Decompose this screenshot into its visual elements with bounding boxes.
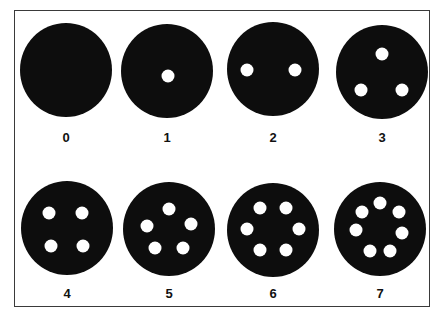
disk-5 <box>123 182 215 276</box>
disk-hole <box>241 64 254 77</box>
disk-hole <box>163 203 176 216</box>
disk-hole <box>374 197 387 210</box>
disk-body <box>336 25 428 119</box>
disk-3 <box>336 25 428 119</box>
disk-hole <box>384 245 397 258</box>
disk-body <box>334 182 426 276</box>
disk-hole <box>280 202 293 215</box>
disk-hole <box>254 202 267 215</box>
disk-0 <box>20 23 112 117</box>
disk-label-5: 5 <box>165 286 172 301</box>
disk-hole <box>254 244 267 257</box>
disk-hole <box>77 240 90 253</box>
disk-hole <box>185 218 198 231</box>
disk-hole <box>76 207 89 220</box>
disk-body <box>123 182 215 276</box>
disk-body <box>20 23 112 117</box>
disk-hole <box>355 84 368 97</box>
disk-4 <box>21 181 113 275</box>
disk-hole <box>149 242 162 255</box>
disk-hole <box>280 244 293 257</box>
disk-diagram: 0 1 2 3 4 5 6 7 <box>0 0 442 319</box>
disk-label-4: 4 <box>63 286 71 301</box>
disk-body <box>21 181 113 275</box>
disk-hole <box>376 48 389 61</box>
disk-label-7: 7 <box>376 286 383 301</box>
disk-hole <box>396 227 409 240</box>
disk-hole <box>289 64 302 77</box>
disk-label-3: 3 <box>378 130 385 145</box>
disk-hole <box>177 242 190 255</box>
disk-hole <box>162 70 175 83</box>
disk-1 <box>121 24 213 118</box>
disk-label-1: 1 <box>163 130 170 145</box>
disk-hole <box>364 245 377 258</box>
disk-7 <box>334 182 426 276</box>
disk-hole <box>241 223 254 236</box>
disk-hole <box>293 223 306 236</box>
disk-label-6: 6 <box>269 286 276 301</box>
disk-hole <box>141 220 154 233</box>
disk-label-0: 0 <box>62 130 69 145</box>
disk-hole <box>356 206 369 219</box>
disk-2 <box>227 22 319 116</box>
disk-hole <box>43 207 56 220</box>
disk-hole <box>45 240 58 253</box>
disk-hole <box>393 206 406 219</box>
disk-6 <box>227 183 319 277</box>
disk-label-2: 2 <box>269 130 276 145</box>
disk-hole <box>350 224 363 237</box>
disk-hole <box>396 84 409 97</box>
